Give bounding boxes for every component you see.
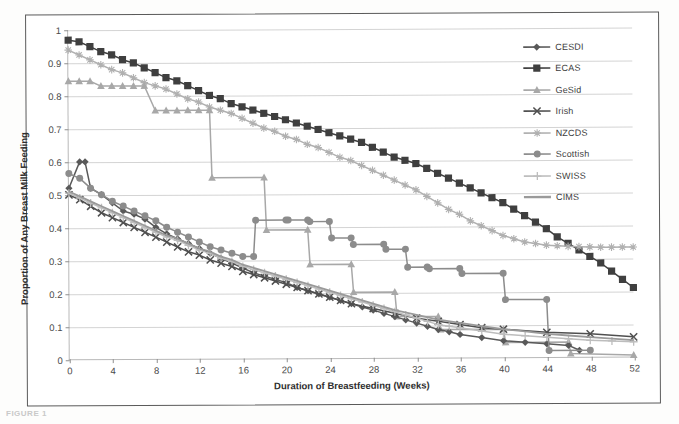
data-point-square — [445, 175, 452, 182]
legend-item-cesdi[interactable]: CESDI — [522, 36, 640, 58]
data-point-square — [608, 268, 615, 275]
x-tick-mark — [374, 358, 375, 362]
legend-label: ECAS — [555, 63, 580, 73]
data-point-circle — [326, 218, 333, 225]
data-point-star — [380, 171, 388, 179]
data-point-star — [347, 157, 355, 165]
data-point-plus — [533, 172, 541, 180]
data-point-star — [477, 222, 485, 230]
data-point-circle — [546, 347, 553, 354]
x-tick-label: 44 — [543, 363, 554, 374]
data-point-star — [619, 243, 627, 251]
legend-label: Scottish — [556, 149, 590, 159]
x-tick-label: 32 — [412, 364, 423, 375]
legend-marker-plus-icon — [523, 169, 552, 183]
data-point-square — [314, 126, 321, 133]
data-point-star — [162, 85, 170, 93]
data-point-square — [380, 149, 387, 156]
data-point-circle — [250, 253, 257, 260]
data-point-circle — [350, 241, 357, 248]
data-point-square — [423, 165, 430, 172]
y-axis-title: Proportion of Any Breast Milk Feeding — [18, 132, 30, 305]
data-point-star — [553, 242, 561, 250]
data-point-star — [390, 176, 398, 184]
data-point-star — [608, 243, 616, 251]
data-point-diamond — [478, 334, 485, 341]
data-point-circle — [239, 253, 246, 260]
data-point-star — [488, 227, 496, 235]
data-point-star — [532, 240, 540, 248]
legend-item-scottish[interactable]: Scottish — [523, 143, 641, 165]
data-point-star — [130, 74, 138, 82]
data-point-square — [75, 38, 82, 45]
data-point-diamond — [522, 339, 529, 346]
legend-marker-none-icon — [523, 190, 552, 204]
data-point-cross — [174, 243, 181, 250]
legend-item-swiss[interactable]: SWISS — [523, 165, 641, 187]
data-point-diamond — [533, 43, 540, 50]
x-tick-mark — [548, 357, 549, 361]
figure-caption: FIGURE 1 — [6, 409, 47, 418]
data-point-star — [629, 243, 637, 251]
data-point-circle — [458, 270, 465, 277]
legend-item-irish[interactable]: Irish — [522, 100, 640, 122]
x-tick-label: 20 — [282, 364, 293, 375]
legend-marker-diamond-icon — [522, 40, 551, 54]
data-point-star — [314, 144, 322, 152]
data-point-square — [173, 77, 180, 84]
data-point-square — [162, 74, 169, 81]
data-point-star — [369, 167, 377, 175]
data-point-square — [543, 225, 550, 232]
data-point-square — [532, 219, 539, 226]
data-point-square — [260, 110, 267, 117]
data-point-square — [467, 184, 474, 191]
y-tick-label: 0.3 — [49, 256, 62, 267]
data-point-square — [434, 170, 441, 177]
x-tick-mark — [461, 357, 462, 361]
data-point-circle — [285, 217, 292, 224]
series-line — [69, 159, 580, 352]
legend-item-ecas[interactable]: ECAS — [522, 57, 640, 79]
data-point-star — [227, 110, 235, 118]
data-point-star — [282, 132, 290, 140]
x-tick-label: 4 — [111, 365, 116, 376]
data-point-square — [217, 95, 224, 102]
data-point-square — [249, 106, 256, 113]
data-point-circle — [131, 207, 138, 214]
data-point-star — [108, 66, 116, 74]
x-axis-title: Duration of Breastfeeding (Weeks) — [274, 380, 430, 392]
x-tick-label: 12 — [195, 365, 206, 376]
data-point-circle — [218, 247, 225, 254]
data-point-star — [119, 69, 127, 77]
data-point-square — [228, 100, 235, 107]
y-tick-label: 0.6 — [49, 157, 62, 168]
legend-label: CIMS — [556, 192, 579, 202]
data-point-star — [336, 154, 344, 162]
data-point-square — [369, 144, 376, 151]
y-tick-label: 1 — [56, 25, 61, 36]
data-point-square — [488, 194, 495, 201]
data-point-square — [412, 160, 419, 167]
x-tick-label: 28 — [369, 364, 380, 375]
data-point-circle — [404, 264, 411, 271]
data-point-circle — [65, 170, 72, 177]
data-point-circle — [500, 270, 507, 277]
data-point-square — [401, 157, 408, 164]
data-point-circle — [141, 212, 148, 219]
data-point-star — [86, 56, 94, 64]
x-tick-label: 0 — [67, 365, 72, 376]
data-point-square — [238, 103, 245, 110]
data-point-square — [130, 59, 137, 66]
legend-item-nzcds[interactable]: NZCDS — [523, 122, 641, 144]
data-point-circle — [348, 234, 355, 241]
y-tick-label: 0 — [57, 355, 62, 366]
legend-item-cims[interactable]: CIMS — [523, 186, 641, 208]
legend-item-gesid[interactable]: GeSid — [522, 79, 640, 101]
data-point-square — [533, 65, 540, 72]
data-point-square — [456, 179, 463, 186]
data-point-circle — [185, 234, 192, 241]
data-point-star — [249, 119, 257, 127]
data-point-star — [293, 136, 301, 144]
data-point-circle — [426, 265, 433, 272]
y-tick-label: 0.1 — [49, 322, 62, 333]
